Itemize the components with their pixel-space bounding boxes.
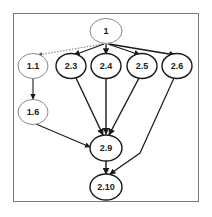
node-1.6[interactable]: 1.6 [18, 100, 48, 125]
edge-1-to-2.5 [108, 44, 140, 55]
node-2.5[interactable]: 2.5 [127, 54, 157, 79]
node-2.5-label: 2.5 [136, 61, 149, 71]
node-1-label: 1 [103, 26, 108, 36]
node-2.10-label: 2.10 [97, 182, 115, 192]
edge-2.5-to-2.9 [109, 78, 139, 135]
node-1[interactable]: 1 [90, 19, 122, 44]
node-2.4-label: 2.4 [100, 61, 113, 71]
node-1.1[interactable]: 1.1 [18, 54, 48, 79]
node-2.3[interactable]: 2.3 [56, 54, 86, 79]
edge-1.6-to-2.9 [36, 124, 90, 147]
edge-2.6-to-2.10 [110, 78, 174, 174]
node-2.6[interactable]: 2.6 [162, 54, 192, 79]
dependency-graph: 1 1.1 2.3 2.4 2.5 2.6 1.6 2.9 2.10 [0, 0, 212, 217]
node-2.3-label: 2.3 [65, 61, 78, 71]
node-2.6-label: 2.6 [171, 61, 184, 71]
node-2.9[interactable]: 2.9 [90, 135, 122, 161]
node-1.6-label: 1.6 [27, 107, 40, 117]
node-2.9-label: 2.9 [100, 143, 113, 153]
node-1.1-label: 1.1 [27, 61, 40, 71]
node-2.4[interactable]: 2.4 [91, 54, 121, 79]
edge-1-to-2.3 [74, 44, 104, 55]
edge-2.3-to-2.9 [76, 78, 103, 135]
node-2.10[interactable]: 2.10 [90, 174, 122, 200]
